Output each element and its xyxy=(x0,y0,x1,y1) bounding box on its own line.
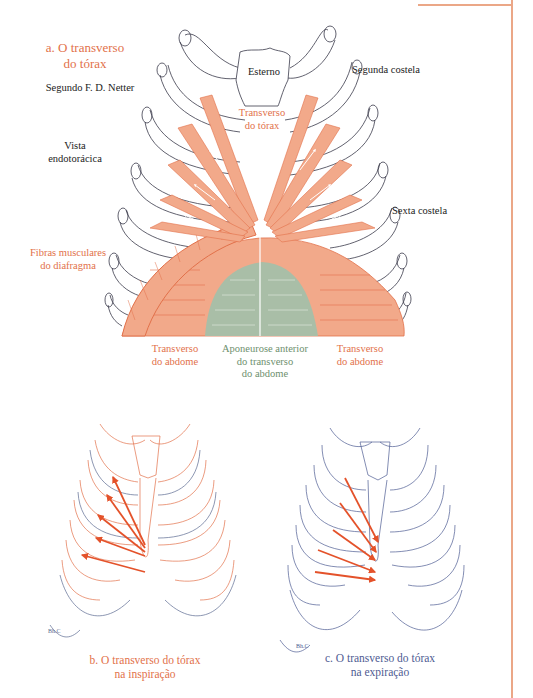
figure-b-caption-line1: b. O transverso do tórax xyxy=(55,654,235,668)
signature-c: Bh.C xyxy=(296,643,309,649)
signature-b: Bh.C xyxy=(48,628,61,634)
figure-c-caption: c. O transverso do tórax na expiração xyxy=(290,652,470,680)
figure-bc-illustrations: Bh.C Bh.C xyxy=(0,0,533,698)
figure-b-caption: b. O transverso do tórax na inspiração xyxy=(55,654,235,682)
figure-c-caption-line2: na expiração xyxy=(290,666,470,680)
rib-cage-expiration xyxy=(280,428,464,652)
figure-b-caption-line2: na inspiração xyxy=(55,668,235,682)
figure-c-caption-line1: c. O transverso do tórax xyxy=(290,652,470,666)
rib-cage-inspiration xyxy=(50,424,236,637)
